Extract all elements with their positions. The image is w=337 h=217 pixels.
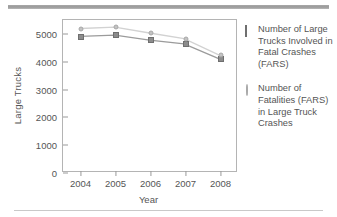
y-axis-tick-label: 3000 [36,84,63,95]
top-divider-rule [8,5,329,9]
chart-legend: Number of Large Trucks Involved in Fatal… [245,24,337,143]
x-axis-tick-label: 2006 [140,171,161,189]
x-axis-tick-mark [185,171,186,176]
bottom-divider-rule [14,210,323,211]
legend-entry-fatalities-large-truck-crashes: Number of Fatalities (FARS) in Large Tru… [245,83,337,129]
y-axis-tick-label: 2000 [36,112,63,123]
x-axis-tick-mark [220,171,221,176]
legend-marker-square-icon [245,26,247,38]
x-axis-tick-label: 2008 [210,171,231,189]
data-point-marker [113,25,118,30]
x-axis-title: Year [56,194,241,205]
y-axis-tick-mark [63,145,68,146]
y-axis-tick-label: 0 [52,168,63,179]
x-axis-tick-label: 2004 [70,171,91,189]
data-point-marker [113,32,119,38]
data-point-marker [148,31,153,36]
data-point-marker [183,41,189,47]
data-point-marker [183,36,188,41]
y-axis-tick-mark [63,173,68,174]
legend-marker-diamond-icon [245,85,248,97]
y-axis-tick-mark [63,33,68,34]
x-axis-tick-label: 2007 [175,171,196,189]
y-axis-tick-label: 5000 [36,28,63,39]
data-point-marker [148,37,154,43]
legend-label-fatalities-large-truck-crashes: Number of Fatalities (FARS) in Large Tru… [258,83,328,128]
data-point-marker [78,26,83,31]
x-axis-tick-mark [115,171,116,176]
data-point-marker [218,53,223,58]
y-axis-title: Large Trucks [12,41,23,151]
y-axis-tick-label: 4000 [36,56,63,67]
y-axis-tick-mark [63,117,68,118]
y-axis-tick-mark [63,61,68,62]
legend-label-large-trucks-fatal-crashes: Number of Large Trucks Involved in Fatal… [258,24,333,69]
y-axis-tick-label: 1000 [36,140,63,151]
y-axis-tick-mark [63,89,68,90]
x-axis-tick-mark [80,171,81,176]
x-axis-tick-label: 2005 [105,171,126,189]
legend-entry-large-trucks-fatal-crashes: Number of Large Trucks Involved in Fatal… [245,24,337,70]
plot-area: 0100020003000400050002004200520062007200… [62,19,237,172]
x-axis-tick-mark [150,171,151,176]
data-point-marker [78,34,84,40]
chart-figure: Large Trucks Year 0100020003000400050002… [0,12,337,208]
